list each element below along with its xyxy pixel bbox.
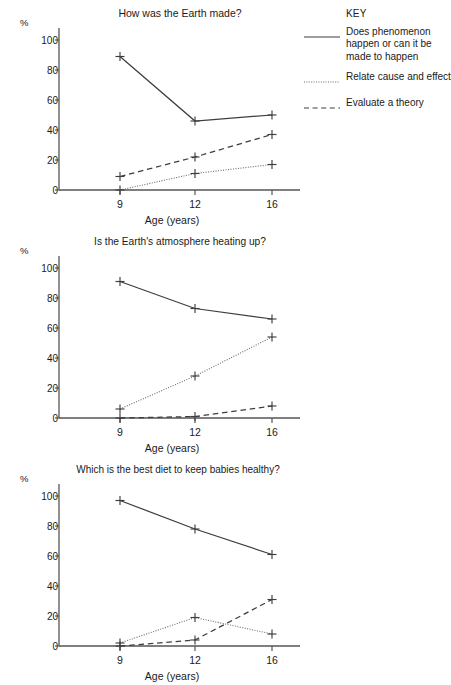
plot-area-0: How was the Earth made? % 020406080100 9…	[0, 0, 300, 225]
x-tick-label: 12	[189, 654, 201, 666]
x-tick-label: 16	[266, 426, 278, 438]
x-tick-label: 9	[117, 426, 123, 438]
x-tick-labels-1: 91216	[0, 228, 300, 453]
x-tick-label: 12	[189, 198, 201, 210]
plot-area-2: Which is the best diet to keep babies he…	[0, 456, 300, 681]
x-tick-labels-0: 91216	[0, 0, 300, 225]
legend: KEY Does phenomenon happen or can it be …	[303, 8, 451, 123]
x-tick-label: 16	[266, 198, 278, 210]
plot-area-1: Is the Earth's atmosphere heating up? % …	[0, 228, 300, 453]
chart-panel-0: How was the Earth made? % 020406080100 9…	[0, 0, 451, 225]
x-tick-label: 16	[266, 654, 278, 666]
legend-label-dashed: Evaluate a theory	[346, 97, 424, 109]
legend-swatch-dotted-icon	[303, 75, 341, 89]
x-tick-label: 9	[117, 198, 123, 210]
legend-title: KEY	[346, 8, 451, 19]
chart-page: How was the Earth made? % 020406080100 9…	[0, 0, 451, 685]
legend-item-dashed: Evaluate a theory	[303, 97, 451, 115]
x-axis-title-0: Age (years)	[62, 214, 282, 226]
chart-panel-2: Which is the best diet to keep babies he…	[0, 456, 451, 681]
x-tick-labels-2: 91216	[0, 456, 300, 681]
x-tick-label: 9	[117, 654, 123, 666]
legend-item-solid: Does phenomenon happen or can it be made…	[303, 26, 451, 63]
legend-swatch-dashed-icon	[303, 101, 341, 115]
chart-panel-1: Is the Earth's atmosphere heating up? % …	[0, 228, 451, 453]
legend-label-solid: Does phenomenon happen or can it be made…	[346, 26, 451, 63]
x-axis-title-1: Age (years)	[62, 442, 282, 454]
x-axis-title-2: Age (years)	[62, 670, 282, 682]
legend-swatch-solid-icon	[303, 30, 341, 44]
legend-label-dotted: Relate cause and effect	[346, 71, 451, 83]
x-tick-label: 12	[189, 426, 201, 438]
legend-item-dotted: Relate cause and effect	[303, 71, 451, 89]
